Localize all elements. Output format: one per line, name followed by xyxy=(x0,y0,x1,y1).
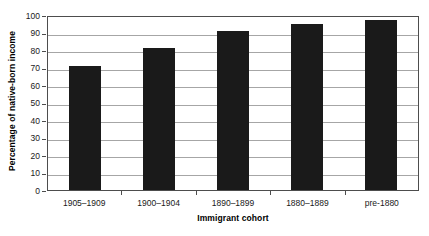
x-tick-mark xyxy=(270,191,271,195)
y-tick-label: 100 xyxy=(14,12,40,21)
bar-slot xyxy=(48,17,122,190)
x-tick-mark xyxy=(196,191,197,195)
bar xyxy=(69,66,101,190)
x-tick-label: 1890–1899 xyxy=(196,196,270,210)
bar-slot xyxy=(270,17,344,190)
y-tick-mark xyxy=(42,86,46,87)
bar-slot xyxy=(344,17,418,190)
bar xyxy=(143,48,175,190)
y-tick-label: 30 xyxy=(14,134,40,143)
bar xyxy=(365,20,397,190)
y-tick-mark xyxy=(42,16,46,17)
y-tick-label: 10 xyxy=(14,169,40,178)
y-tick-label: 60 xyxy=(14,82,40,91)
y-tick-label: 20 xyxy=(14,152,40,161)
y-tick-mark xyxy=(42,34,46,35)
y-tick-mark xyxy=(42,174,46,175)
y-tick-mark xyxy=(42,156,46,157)
x-tick-label: 1900–1904 xyxy=(121,196,195,210)
y-tick-label: 70 xyxy=(14,64,40,73)
y-tick-mark xyxy=(42,104,46,105)
y-tick-mark xyxy=(42,69,46,70)
bar-slot xyxy=(122,17,196,190)
plot-area xyxy=(47,16,419,191)
y-tick-label: 40 xyxy=(14,117,40,126)
x-tick-label: pre-1880 xyxy=(345,196,419,210)
bar-chart: Percentage of native-born income 1009080… xyxy=(0,0,429,236)
bars-container xyxy=(48,17,418,190)
y-tick-mark xyxy=(42,51,46,52)
x-tick-label: 1905–1909 xyxy=(47,196,121,210)
x-axis-title: Immigrant cohort xyxy=(47,213,419,223)
y-tick-mark xyxy=(42,191,46,192)
x-tick-label: 1880–1889 xyxy=(270,196,344,210)
y-tick-mark xyxy=(42,121,46,122)
y-tick-label: 50 xyxy=(14,99,40,108)
y-tick-mark xyxy=(42,139,46,140)
x-tick-mark xyxy=(345,191,346,195)
y-tick-label: 90 xyxy=(14,29,40,38)
x-tick-mark xyxy=(121,191,122,195)
y-axis-ticks: 1009080706050403020100 xyxy=(0,0,47,236)
y-tick-label: 0 xyxy=(14,187,40,196)
x-axis-labels: 1905–19091900–19041890–18991880–1889pre-… xyxy=(47,196,419,210)
bar-slot xyxy=(196,17,270,190)
y-tick-label: 80 xyxy=(14,47,40,56)
bar xyxy=(217,31,249,190)
bar xyxy=(291,24,323,190)
